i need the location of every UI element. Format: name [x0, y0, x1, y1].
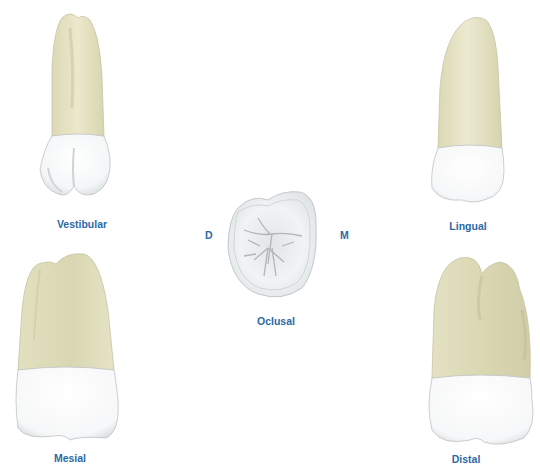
orientation-label-mesial: M: [340, 229, 349, 241]
tooth-distal-view: [420, 250, 540, 450]
vestibular-tooth-illustration: [22, 8, 122, 208]
view-label-distal: Distal: [426, 453, 506, 465]
view-label-lingual: Lingual: [428, 220, 508, 232]
orientation-label-distal: D: [205, 229, 213, 241]
tooth-oclusal-view: [224, 188, 320, 300]
lingual-tooth-illustration: [418, 8, 518, 208]
mesial-tooth-illustration: [10, 250, 130, 450]
tooth-mesial-view: [10, 250, 130, 450]
view-label-vestibular: Vestibular: [42, 218, 122, 230]
view-label-oclusal: Oclusal: [236, 315, 316, 327]
tooth-lingual-view: [418, 8, 518, 208]
oclusal-tooth-illustration: [224, 188, 320, 300]
view-label-mesial: Mesial: [30, 452, 110, 464]
tooth-vestibular-view: [22, 8, 122, 208]
distal-tooth-illustration: [420, 250, 540, 450]
